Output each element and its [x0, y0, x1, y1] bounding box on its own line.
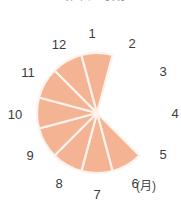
- month-label-5: 5: [159, 148, 166, 161]
- month-label-10: 10: [8, 108, 22, 121]
- fan-chart-plot: 123456789101112 (月): [0, 0, 181, 204]
- month-label-3: 3: [159, 65, 166, 78]
- month-label-11: 11: [21, 66, 35, 79]
- month-label-7: 7: [93, 188, 100, 201]
- axis-unit-label: (月): [136, 180, 156, 192]
- month-label-9: 9: [26, 149, 33, 162]
- fan-sector-group: [37, 53, 139, 173]
- month-label-12: 12: [52, 38, 66, 51]
- month-label-1: 1: [88, 27, 95, 40]
- month-label-8: 8: [55, 177, 62, 190]
- month-label-4: 4: [171, 107, 178, 120]
- month-label-2: 2: [128, 37, 135, 50]
